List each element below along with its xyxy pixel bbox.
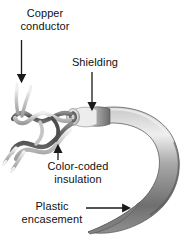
label-shielding: Shielding (62, 56, 128, 69)
twisted-pair-wires-group (3, 84, 71, 172)
label-color-coded-insulation-line2: insulation (26, 173, 130, 186)
wire-end-upper-a (16, 88, 18, 114)
label-copper-conductor-line2: conductor (0, 20, 90, 33)
copper-conductor-tip-b (30, 86, 31, 92)
label-plastic-encasement-line1: Plastic (16, 200, 88, 213)
wire-cross-mid-light (36, 122, 42, 144)
label-color-coded-insulation-line1: Color-coded (26, 160, 130, 173)
label-plastic-encasement: Plastic encasement (16, 200, 88, 225)
label-copper-conductor: Copper conductor (0, 7, 90, 32)
label-copper-conductor-line1: Copper (0, 7, 90, 20)
label-shielding-line1: Shielding (62, 56, 128, 69)
shield-braid-inner (71, 114, 74, 119)
label-plastic-encasement-line2: encasement (16, 213, 88, 226)
label-color-coded-insulation: Color-coded insulation (26, 160, 130, 185)
